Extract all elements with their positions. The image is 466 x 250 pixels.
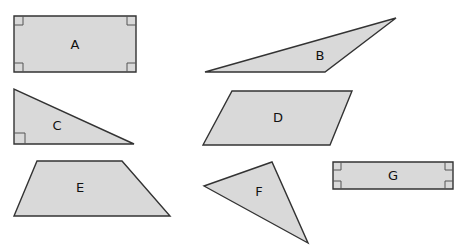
shape-d-parallelogram: D <box>203 91 352 145</box>
shape-f-triangle: F <box>204 162 308 243</box>
shape-label-b: B <box>316 48 325 63</box>
shape-label-d: D <box>273 110 283 125</box>
shape-b-obtuse-triangle: B <box>205 18 396 72</box>
shape-a-rectangle: A <box>14 16 136 72</box>
shape-label-a: A <box>71 37 80 52</box>
shape-label-f: F <box>255 184 262 199</box>
shape-g-rectangle: G <box>333 162 453 189</box>
shape-label-c: C <box>52 118 61 133</box>
shapes-diagram: A B C D E F G <box>0 0 466 250</box>
shape-e-trapezoid: E <box>14 161 170 216</box>
shape-label-g: G <box>388 168 398 183</box>
shape-label-e: E <box>76 180 84 195</box>
shape-c-right-triangle: C <box>14 89 134 144</box>
